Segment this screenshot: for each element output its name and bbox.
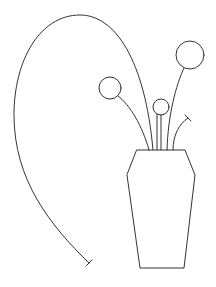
vase-flowers-drawing <box>0 0 216 287</box>
small-flower-head <box>153 99 169 115</box>
vase <box>127 150 195 268</box>
large-flower-stem <box>167 68 184 150</box>
long-curling-stem <box>14 15 153 263</box>
large-flower-head <box>176 41 204 69</box>
bud-stem <box>173 118 188 150</box>
left-flower-head <box>99 77 121 99</box>
left-flower-stem <box>118 96 149 150</box>
